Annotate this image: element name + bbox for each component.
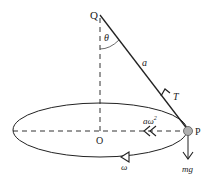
label-weight-mg: mg bbox=[182, 164, 193, 174]
bob-P bbox=[184, 127, 193, 136]
label-length-a: a bbox=[142, 57, 147, 68]
label-Q: Q bbox=[90, 9, 98, 21]
tension-arrow-icon bbox=[161, 89, 170, 96]
angle-arc bbox=[100, 40, 119, 49]
centripetal-arrow-icon bbox=[144, 126, 156, 136]
label-centripetal: aω2 bbox=[143, 115, 157, 126]
label-tension-T: T bbox=[173, 91, 180, 102]
conical-pendulum-diagram: Q O P θ a T aω2 mg ω bbox=[0, 0, 211, 178]
label-P: P bbox=[195, 126, 201, 137]
label-theta: θ bbox=[104, 32, 109, 43]
angular-velocity-arrow-icon bbox=[121, 152, 129, 162]
label-omega: ω bbox=[121, 162, 127, 172]
string-QP bbox=[100, 15, 188, 130]
label-O: O bbox=[96, 135, 103, 146]
label-centripetal-exponent: 2 bbox=[154, 115, 157, 121]
